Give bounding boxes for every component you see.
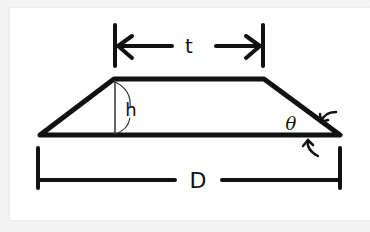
angle-label: θ bbox=[286, 113, 297, 134]
top-width-label: t bbox=[185, 34, 193, 58]
height-label: h bbox=[125, 99, 136, 120]
base-width-label: D bbox=[190, 168, 207, 193]
